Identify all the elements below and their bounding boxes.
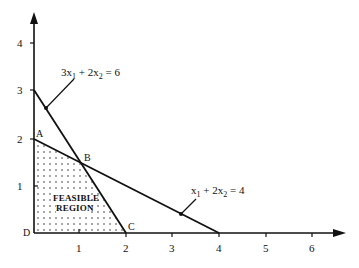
vertex-label-b: B: [84, 152, 91, 163]
x-tick-label-1: 1: [76, 242, 82, 254]
feasible-region: [34, 139, 126, 233]
lp-feasible-region-diagram: 1 2 3 4 1 2 3 4 5 6 3x1 + 2x2 = 6 x1 + 2…: [0, 0, 359, 268]
leader-dot-eq2: [179, 212, 183, 216]
feasible-region-label-line2: REGION: [56, 203, 94, 213]
leader-dot-eq1: [44, 106, 48, 110]
y-tick-label-2: 2: [17, 133, 23, 145]
y-tick-label-3: 3: [17, 84, 23, 96]
vertex-label-a: A: [36, 128, 44, 139]
x-tick-label-3: 3: [169, 242, 175, 254]
equation-label-1: 3x1 + 2x2 = 6: [61, 66, 120, 81]
vertex-label-d: D: [23, 227, 30, 238]
equation-label-2: x1 + 2x2 = 4: [191, 184, 245, 199]
x-tick-label-2: 2: [123, 242, 129, 254]
x-tick-label-4: 4: [216, 242, 222, 254]
y-tick-label-1: 1: [17, 180, 23, 192]
x-axis-arrow-icon: [333, 229, 346, 237]
feasible-region-label-line1: FEASIBLE: [53, 193, 99, 203]
vertex-label-c: C: [128, 221, 135, 232]
x-tick-label-6: 6: [309, 242, 315, 254]
leader-line-eq2: [181, 199, 196, 214]
y-axis-arrow-icon: [30, 12, 38, 24]
leader-line-eq1: [46, 79, 74, 108]
x-tick-label-5: 5: [263, 242, 269, 254]
y-tick-label-4: 4: [17, 37, 23, 49]
